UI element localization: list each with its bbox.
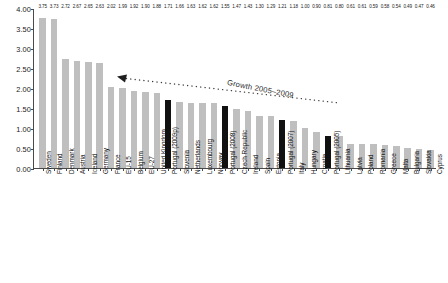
bar-slot: 0.61	[345, 9, 356, 168]
x-axis-label-slot: EU-27	[140, 174, 152, 279]
bar-value-label: 1.62	[210, 4, 219, 9]
y-axis-tick-label: 1.50	[16, 105, 31, 114]
x-axis-label-slot: Greece	[381, 174, 393, 279]
x-axis-label-slot: Luxembourg	[197, 174, 209, 279]
x-axis-category-label: Romania	[378, 149, 385, 174]
x-axis-category-label: Denmark	[67, 148, 74, 174]
x-axis-label-slot: Portugal (2007)	[278, 174, 290, 279]
x-axis-category-label: Portugal (2007)	[286, 131, 293, 174]
bar-value-label: 1.90	[141, 4, 150, 9]
x-axis-tickmark	[100, 168, 101, 171]
x-axis-category-label: Slovakia	[424, 150, 431, 174]
x-axis-category-label: Sweden	[44, 151, 51, 174]
bar-slot: 1.99	[117, 9, 128, 168]
bar-slot: 0.54	[391, 9, 402, 168]
bar[interactable]: 3.73	[51, 19, 58, 168]
y-axis-tick-label: 4.00	[16, 5, 31, 14]
x-axis-tickmark	[294, 168, 295, 171]
x-axis-category-label: Germany	[102, 148, 109, 174]
bar-slot: 3.75	[37, 9, 48, 168]
bar-value-label: 0.46	[426, 4, 435, 9]
x-axis-label-slot: Estonia	[266, 174, 278, 279]
x-axis-category-label: Italy	[298, 163, 305, 174]
x-axis-category-label: Belgium	[136, 151, 143, 174]
x-axis-tickmark	[305, 168, 306, 171]
bar-value-label: 1.29	[267, 4, 276, 9]
x-axis-label-slot: Netherlands	[186, 174, 198, 279]
x-axis-tickmark	[373, 168, 374, 171]
x-axis-label-slot: Norway	[209, 174, 221, 279]
x-axis-label-slot: Lithuania	[335, 174, 347, 279]
bar-value-label: 1.66	[175, 4, 184, 9]
x-axis-tickmark	[43, 168, 44, 171]
x-axis-label-slot: EU-15	[117, 174, 129, 279]
bar-value-label: 1.62	[198, 4, 207, 9]
x-axis-label-slot: Hungary	[301, 174, 313, 279]
bar-slot: 1.00	[299, 9, 310, 168]
x-axis-label-slot: Belgium	[128, 174, 140, 279]
x-axis-category-label: France	[113, 154, 120, 174]
x-axis-label-slot: Croatia	[312, 174, 324, 279]
x-axis-tickmark	[123, 168, 124, 171]
x-axis-label-slot: Poland	[358, 174, 370, 279]
bar-value-label: 0.90	[312, 4, 321, 9]
bar-value-label: 1.92	[130, 4, 139, 9]
x-axis-tickmark	[282, 168, 283, 171]
x-axis-category-label: Cyprus	[436, 154, 443, 174]
x-axis-category-label: Hungary	[309, 150, 316, 174]
bar-slot: 2.72	[60, 9, 71, 168]
x-axis-label-slot: Finland	[48, 174, 60, 279]
x-axis-label-slot: Ireland	[243, 174, 255, 279]
x-axis-tickmark	[225, 168, 226, 171]
bar-slot: 2.02	[105, 9, 116, 168]
x-axis-tickmark	[214, 168, 215, 171]
bar-value-label: 1.99	[118, 4, 127, 9]
x-axis-label-slot: Romania	[370, 174, 382, 279]
x-axis-label-slot: France	[105, 174, 117, 279]
bar-slot: 0.90	[311, 9, 322, 168]
x-axis-category-label: Luxembourg	[206, 139, 213, 174]
x-axis-label-slot: Spain	[255, 174, 267, 279]
x-axis-tickmark	[134, 168, 135, 171]
bar-slot: 2.65	[83, 9, 94, 168]
bar-slot: 0.46	[425, 9, 436, 168]
y-axis-tickmark	[31, 169, 34, 170]
x-axis-tickmark	[145, 168, 146, 171]
x-axis-category-label: Ireland	[252, 155, 259, 174]
bar-slot: 1.90	[140, 9, 151, 168]
x-axis-tickmark	[271, 168, 272, 171]
bar-value-label: 3.73	[50, 4, 59, 9]
y-axis-tick-label: 1.00	[16, 125, 31, 134]
x-axis-category-label: Malta	[401, 159, 408, 174]
x-axis-category-label: Poland	[367, 154, 374, 174]
x-axis-category-labels: SwedenFinlandDenmarkAustriaIcelandGerman…	[36, 174, 439, 279]
bar-slot: 0.49	[402, 9, 413, 168]
bar-value-label: 2.67	[73, 4, 82, 9]
x-axis-tickmark	[202, 168, 203, 171]
bar-value-label: 1.30	[255, 4, 264, 9]
x-axis-category-label: Latvia	[355, 157, 362, 174]
bar-slot: 0.58	[379, 9, 390, 168]
x-axis-label-slot: Portugal (2008)	[220, 174, 232, 279]
x-axis-label-slot: Germany	[94, 174, 106, 279]
x-axis-tickmark	[259, 168, 260, 171]
x-axis-tickmark	[237, 168, 238, 171]
bar-slot: 2.67	[71, 9, 82, 168]
bar-value-label: 0.47	[415, 4, 424, 9]
bar-slot: 0.61	[356, 9, 367, 168]
bar-value-label: 0.54	[392, 4, 401, 9]
bar-value-label: 0.49	[403, 4, 412, 9]
x-axis-category-label: Slovenia	[183, 150, 190, 174]
bar-slot: 3.73	[48, 9, 59, 168]
bar[interactable]: 2.67	[74, 61, 81, 168]
bar-value-label: 3.75	[38, 4, 47, 9]
x-axis-category-label: Iceland	[90, 154, 97, 174]
bar[interactable]: 3.75	[39, 18, 46, 168]
bar-value-label: 1.47	[232, 4, 241, 9]
bar-slot: 1.92	[128, 9, 139, 168]
bar[interactable]: 2.65	[85, 62, 92, 168]
x-axis-label-slot: Portugal (2005)	[324, 174, 336, 279]
bar-value-label: 2.65	[84, 4, 93, 9]
x-axis-category-label: Estonia	[275, 153, 282, 174]
bar-value-label: 1.43	[244, 4, 253, 9]
